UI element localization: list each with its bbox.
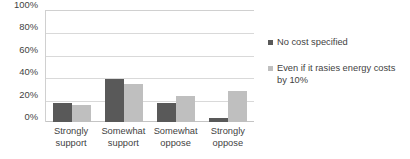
bar-series-2	[72, 105, 91, 122]
plot-area	[45, 10, 254, 122]
chart-title: SUPPORT FOR RENEWABLE ENERGY STANDARD	[8, 0, 402, 2]
bar-series-2	[124, 84, 143, 122]
y-tick-label: 80%	[0, 22, 38, 32]
legend-label: No cost specified	[277, 36, 348, 48]
y-tick-label: 40%	[0, 67, 38, 77]
bar-series-1	[53, 103, 72, 122]
y-tick-label: 0%	[0, 112, 38, 122]
bar-series-1	[105, 79, 124, 122]
x-tick-label: Somewhat oppose	[150, 124, 202, 157]
y-tick-label: 20%	[0, 90, 38, 100]
bar-group	[150, 11, 202, 122]
y-axis: 100% 80% 60% 40% 20% 0%	[0, 5, 43, 123]
bar-group	[98, 11, 150, 122]
bar-chart: SUPPORT FOR RENEWABLE ENERGY STANDARD 10…	[0, 0, 410, 159]
legend-label: Even if it rasies energy costs by 10%	[277, 62, 405, 86]
bar-series-2	[228, 91, 247, 122]
bar-series-2	[176, 96, 195, 122]
y-tick-label: 100%	[0, 0, 38, 10]
legend-item: Even if it rasies energy costs by 10%	[268, 62, 410, 86]
legend-swatch-icon	[268, 66, 273, 71]
bar-groups	[46, 11, 254, 122]
bar-series-1	[209, 118, 228, 122]
y-tick-label: 60%	[0, 45, 38, 55]
x-axis: Strongly support Somewhat support Somewh…	[45, 124, 254, 157]
x-tick-label: Strongly oppose	[202, 124, 254, 157]
legend-item: No cost specified	[268, 36, 410, 48]
x-tick-label: Strongly support	[45, 124, 97, 157]
x-tick-label: Somewhat support	[97, 124, 149, 157]
bar-group	[202, 11, 254, 122]
legend-swatch-icon	[268, 40, 273, 45]
bar-series-1	[157, 103, 176, 122]
bar-group	[46, 11, 98, 122]
legend: No cost specified Even if it rasies ener…	[268, 36, 410, 100]
